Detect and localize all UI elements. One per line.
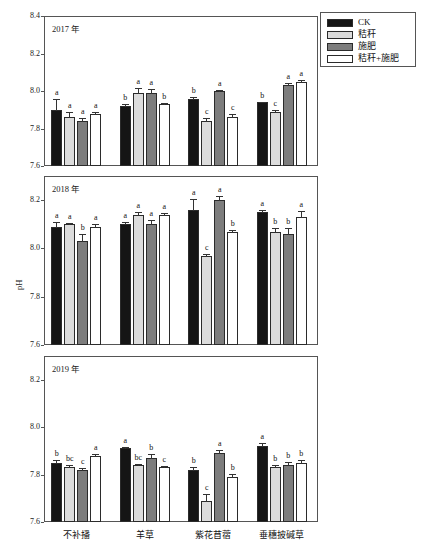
error-bar-cap [285, 83, 292, 84]
error-bar-cap [190, 467, 197, 468]
error-bar-cap [79, 118, 86, 119]
bar-straw [201, 121, 212, 166]
error-bar-cap [66, 465, 73, 466]
significance-letter: b [293, 449, 309, 458]
bar-fert [283, 85, 294, 166]
y-tick-label: 8.0 [14, 422, 40, 431]
y-tick-mark [41, 427, 44, 428]
bar-ck [188, 99, 199, 167]
significance-letter: a [186, 188, 202, 197]
bar-fert [146, 458, 157, 522]
y-tick-label: 8.2 [14, 195, 40, 204]
y-tick-mark [41, 129, 44, 130]
bar-straw [201, 501, 212, 522]
bar-fert [283, 465, 294, 522]
significance-letter: bc [130, 453, 146, 462]
bar-straw [64, 467, 75, 522]
bar-fert [283, 234, 294, 345]
y-tick-mark [41, 166, 44, 167]
error-bar-cap [285, 228, 292, 229]
y-tick-label: 7.6 [14, 161, 40, 170]
error-bar-cap [229, 114, 236, 115]
error-bar-cap [203, 118, 210, 119]
error-bar-cap [298, 460, 305, 461]
y-tick-label: 8.2 [14, 49, 40, 58]
bar-straw [133, 215, 144, 345]
y-tick-mark [41, 475, 44, 476]
bar-straw [201, 256, 212, 345]
significance-letter: a [254, 199, 270, 208]
error-bar-cap [79, 234, 86, 235]
significance-letter: b [186, 86, 202, 95]
error-bar-cap [216, 196, 223, 197]
x-axis-label-1: 羊草 [112, 528, 178, 541]
legend-label: 秸秆+施肥 [358, 54, 399, 63]
bar-both [159, 467, 170, 522]
error-bar-cap [53, 222, 60, 223]
significance-letter: a [130, 201, 146, 210]
bar-straw [133, 93, 144, 166]
legend-label: 施肥 [358, 42, 376, 51]
y-tick-mark [41, 91, 44, 92]
error-bar-cap [298, 80, 305, 81]
legend-item-fert: 施肥 [327, 42, 376, 51]
y-tick-label: 8.4 [14, 11, 40, 20]
error-bar-cap [216, 90, 223, 91]
error-bar-cap [92, 454, 99, 455]
significance-letter: a [62, 212, 78, 221]
error-bar-cap [53, 99, 60, 100]
significance-letter: b [225, 463, 241, 472]
bar-ck [51, 227, 62, 345]
bar-ck [188, 470, 199, 522]
significance-letter: a [49, 88, 65, 97]
legend-swatch-both [327, 55, 353, 63]
legend-item-both: 秸秆+施肥 [327, 54, 399, 63]
y-tick-mark [41, 16, 44, 17]
significance-letter: a [88, 213, 104, 222]
chart-root: pH0～10cm2017 年8.48.28.07.87.6aaaabaabbca… [0, 0, 421, 550]
legend-swatch-straw [327, 31, 353, 39]
bar-fert [77, 241, 88, 345]
bar-both [227, 477, 238, 522]
bar-fert [214, 91, 225, 166]
significance-letter: c [199, 107, 215, 116]
bar-straw [64, 117, 75, 166]
y-tick-label: 7.8 [14, 124, 40, 133]
significance-letter: a [212, 79, 228, 88]
error-bar-cap [229, 230, 236, 231]
error-bar-cap [122, 447, 129, 448]
bar-straw [270, 467, 281, 522]
legend-label: 秸秆 [358, 30, 376, 39]
y-tick-label: 8.2 [14, 375, 40, 384]
significance-letter: a [212, 185, 228, 194]
error-bar-cap [272, 228, 279, 229]
error-bar-cap [272, 465, 279, 466]
error-bar-cap [259, 210, 266, 211]
bar-fert [77, 470, 88, 522]
bar-fert [146, 224, 157, 345]
y-tick-label: 7.6 [14, 340, 40, 349]
error-bar-cap [190, 199, 197, 200]
bar-both [296, 217, 307, 345]
significance-letter: a [143, 78, 159, 87]
error-bar-cap [272, 110, 279, 111]
y-tick-label: 7.8 [14, 292, 40, 301]
bar-both [90, 114, 101, 167]
bar-both [227, 117, 238, 166]
bar-fert [214, 453, 225, 522]
panel-title-1: 2017 年 [52, 22, 80, 34]
x-axis-label-2: 紫花苜蓿 [180, 528, 246, 541]
legend-swatch-fert [327, 43, 353, 51]
error-bar-cap [122, 104, 129, 105]
error-bar-cap [66, 223, 73, 224]
significance-letter: b [225, 219, 241, 228]
significance-letter: a [293, 69, 309, 78]
y-tick-label: 8.0 [14, 86, 40, 95]
bar-ck [257, 212, 268, 345]
bar-fert [77, 121, 88, 166]
significance-letter: c [75, 457, 91, 466]
significance-letter: b [280, 217, 296, 226]
significance-letter: c [156, 455, 172, 464]
y-tick-mark [41, 297, 44, 298]
significance-letter: a [212, 439, 228, 448]
